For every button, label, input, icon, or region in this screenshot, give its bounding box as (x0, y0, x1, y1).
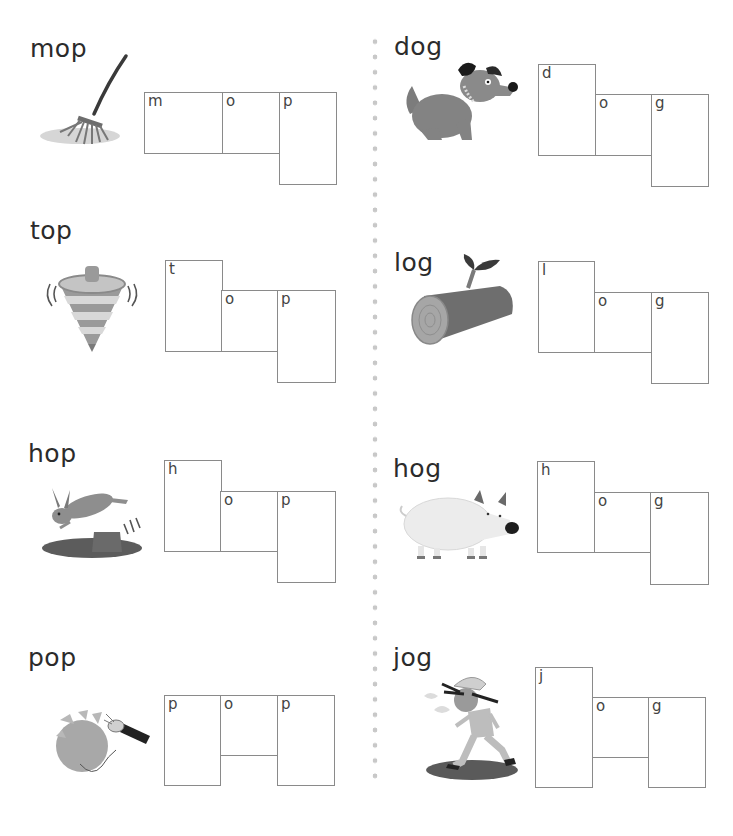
letter-box-3[interactable]: p (277, 290, 336, 383)
letter-box-3[interactable]: g (648, 697, 706, 788)
letter-hint: o (224, 492, 233, 509)
dog-icon (398, 56, 528, 146)
letter-hint: o (599, 95, 608, 112)
letter-box-1[interactable]: m (144, 92, 224, 154)
letter-hint: o (596, 698, 605, 715)
mop-icon (38, 52, 134, 152)
letter-hint: g (654, 493, 664, 510)
letter-hint: p (281, 291, 291, 308)
letter-box-2[interactable]: o (220, 491, 278, 552)
jogging-child-icon (424, 670, 524, 782)
letter-hint: p (281, 696, 291, 713)
letter-box-3[interactable]: p (277, 491, 336, 583)
letter-hint: j (539, 668, 543, 685)
letter-hint: h (168, 461, 178, 478)
letter-box-1[interactable]: h (537, 461, 595, 553)
letter-hint: o (598, 493, 607, 510)
letter-box-1[interactable]: d (538, 64, 596, 156)
letter-hint: h (541, 462, 551, 479)
letter-box-2[interactable]: o (594, 492, 652, 553)
letter-box-3[interactable]: p (279, 92, 337, 185)
log-icon (404, 252, 516, 348)
letter-hint: o (598, 293, 607, 310)
letter-box-1[interactable]: t (165, 260, 223, 352)
letter-box-2[interactable]: o (594, 292, 652, 353)
letter-box-3[interactable]: g (651, 292, 709, 384)
letter-hint: o (226, 93, 235, 110)
letter-hint: l (542, 262, 546, 279)
letter-hint: o (224, 696, 233, 713)
letter-hint: p (283, 93, 293, 110)
letter-hint: t (169, 261, 175, 278)
letter-box-2[interactable]: o (220, 695, 278, 756)
hopping-rabbit-icon (40, 478, 144, 562)
word-label: pop (28, 645, 77, 670)
dotted-column-divider (372, 34, 378, 779)
spinning-top-icon (40, 262, 144, 354)
letter-box-3[interactable]: g (650, 492, 709, 585)
letter-hint: m (148, 93, 163, 110)
word-label: hog (393, 456, 442, 481)
letter-box-1[interactable]: h (164, 460, 222, 552)
popping-balloon-icon (52, 706, 152, 776)
letter-box-1[interactable]: j (535, 667, 593, 788)
letter-box-2[interactable]: o (221, 290, 279, 352)
word-label: hop (28, 441, 77, 466)
letter-hint: g (655, 95, 665, 112)
letter-box-2[interactable]: o (592, 697, 649, 758)
letter-hint: d (542, 65, 552, 82)
letter-hint: g (655, 293, 665, 310)
letter-hint: g (652, 698, 662, 715)
letter-box-2[interactable]: o (222, 92, 280, 154)
letter-hint: p (168, 696, 178, 713)
word-label: top (30, 218, 72, 243)
letter-hint: o (225, 291, 234, 308)
letter-box-3[interactable]: p (277, 695, 335, 786)
letter-box-1[interactable]: l (538, 261, 595, 353)
hog-icon (398, 490, 526, 566)
letter-box-1[interactable]: p (164, 695, 221, 786)
letter-hint: p (281, 492, 291, 509)
letter-box-3[interactable]: g (651, 94, 709, 187)
word-label: jog (393, 645, 433, 670)
letter-box-2[interactable]: o (595, 94, 652, 156)
